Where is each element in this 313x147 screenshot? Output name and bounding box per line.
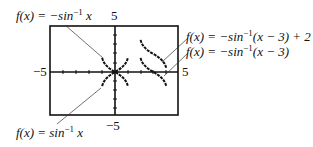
label-neg-arcsin-text: f(x) = −sin — [16, 8, 73, 23]
leader-arcsin — [57, 88, 101, 124]
label-shift-up-exp: −1 — [243, 28, 253, 38]
label-neg-arcsin: f(x) = −sin−1 x — [16, 9, 92, 22]
label-shift: f(x) = −sin−1(x − 3) — [186, 45, 289, 58]
leader-shift-up — [162, 38, 188, 62]
label-shift-arg: (x − 3) — [253, 44, 289, 59]
label-arcsin-exp: −1 — [64, 124, 74, 134]
label-shift-exp: −1 — [243, 43, 253, 53]
label-neg-arcsin-var: x — [83, 8, 92, 23]
label-arcsin: f(x) = sin−1 x — [16, 126, 83, 139]
curve-neg-arcsin-shift-up — [141, 40, 167, 68]
leader-lines — [57, 25, 188, 124]
x-min-label: −5 — [33, 65, 47, 78]
y-min-label: −5 — [106, 119, 120, 132]
label-arcsin-text: f(x) = sin — [16, 125, 64, 140]
x-max-label: 5 — [182, 65, 189, 78]
y-max-label: 5 — [111, 9, 118, 22]
leader-neg-arcsin — [65, 25, 103, 58]
label-arcsin-var: x — [74, 125, 83, 140]
label-shift-up-text: f(x) = −sin — [186, 29, 243, 44]
label-shift-up-arg: (x − 3) + 2 — [253, 29, 311, 44]
label-shift-text: f(x) = −sin — [186, 44, 243, 59]
label-shift-up: f(x) = −sin−1(x − 3) + 2 — [186, 30, 311, 43]
label-neg-arcsin-exp: −1 — [73, 7, 83, 17]
